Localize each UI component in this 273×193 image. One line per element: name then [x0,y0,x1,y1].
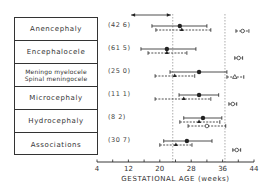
filled-circle-marker-icon [201,116,205,120]
open-circle-marker-icon [205,124,209,128]
filled-circle-marker-icon [178,24,182,28]
filled-circle-marker-icon [185,139,189,143]
filled-circle-marker-icon [197,93,201,97]
x-tick-label: 36 [218,165,227,173]
x-tick-label: 28 [187,165,196,173]
filled-circle-marker-icon [165,47,169,51]
x-axis-title: GESTATIONAL AGE (weeks) [121,175,229,183]
plot-area: 41220283644GESTATIONAL AGE (weeks) [0,0,273,193]
open-circle-marker-icon [235,148,239,152]
arrow-right-icon [167,13,171,17]
open-circle-marker-icon [231,102,235,106]
x-tick-label: 44 [250,165,259,173]
arrow-left-icon [131,13,135,17]
filled-triangle-marker-icon [173,74,177,77]
open-circle-marker-icon [237,56,241,60]
open-circle-marker-icon [241,29,245,33]
chart: Anencephaly Encephalocele Meningo myeloc… [0,0,273,193]
filled-circle-marker-icon [197,70,201,74]
x-tick-label: 20 [155,165,164,173]
x-tick-label: 4 [95,165,100,173]
filled-triangle-marker-icon [197,120,201,123]
filled-triangle-marker-icon [174,143,178,146]
filled-triangle-marker-icon [182,97,186,100]
filled-triangle-marker-icon [165,51,169,54]
x-tick-label: 12 [124,165,133,173]
open-triangle-marker-icon [233,75,237,79]
